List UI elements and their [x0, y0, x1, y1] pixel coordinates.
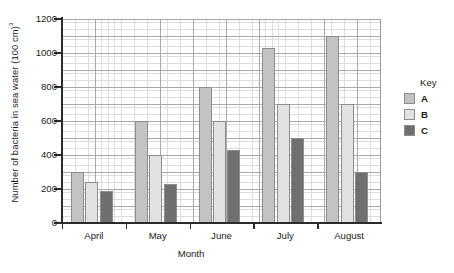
bar-june-b: [213, 121, 226, 223]
legend-entry-b: B: [404, 109, 454, 120]
legend-label-c: C: [421, 125, 428, 136]
bar-june-c: [227, 150, 240, 223]
bar-april-b: [85, 182, 98, 223]
x-tick-mark: [126, 223, 127, 229]
x-tick-label-july: July: [253, 230, 317, 241]
bar-july-a: [262, 48, 275, 223]
legend-swatch-b: [404, 109, 415, 120]
legend-title: Key: [420, 77, 454, 88]
bar-june-a: [199, 87, 212, 223]
bar-august-a: [326, 36, 339, 223]
x-tick-label-august: August: [317, 230, 381, 241]
legend-label-a: A: [421, 93, 428, 104]
x-tick-mark: [190, 223, 191, 229]
bar-july-b: [277, 104, 290, 223]
legend-entry-a: A: [404, 93, 454, 104]
x-tick-label-june: June: [190, 230, 254, 241]
x-axis-title: Month: [0, 248, 454, 259]
y-tick-label: 0: [5, 217, 57, 228]
bar-april-c: [100, 191, 113, 223]
x-axis-line: [61, 222, 382, 224]
bar-may-c: [164, 184, 177, 223]
bar-may-a: [135, 121, 148, 223]
y-axis-ticks: 020040060080010001200: [0, 0, 57, 273]
legend: Key ABC: [404, 77, 454, 141]
bar-july-c: [291, 138, 304, 223]
y-tick-label: 200: [5, 183, 57, 194]
legend-label-b: B: [421, 109, 428, 120]
legend-entries: ABC: [404, 93, 454, 136]
y-axis-line: [61, 17, 63, 224]
x-tick-label-april: April: [62, 230, 126, 241]
x-tick-label-may: May: [126, 230, 190, 241]
bar-april-a: [71, 172, 84, 223]
legend-swatch-c: [404, 125, 415, 136]
legend-swatch-a: [404, 93, 415, 104]
bar-may-b: [149, 155, 162, 223]
y-tick-label: 800: [5, 81, 57, 92]
y-tick-label: 600: [5, 115, 57, 126]
x-tick-mark: [317, 223, 318, 229]
y-tick-label: 1000: [5, 47, 57, 58]
bar-august-b: [341, 104, 354, 223]
y-tick-label: 1200: [5, 13, 57, 24]
y-tick-label: 400: [5, 149, 57, 160]
bar-august-c: [355, 172, 368, 223]
bars-layer: [62, 19, 381, 223]
bar-chart: Number of bacteria in sea water (100 cm)…: [0, 0, 454, 273]
x-tick-mark: [253, 223, 254, 229]
x-tick-mark: [62, 223, 63, 229]
x-axis-title-text: Month: [178, 248, 205, 259]
legend-entry-c: C: [404, 125, 454, 136]
